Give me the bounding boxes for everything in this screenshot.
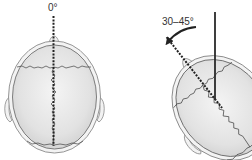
neutral-angle-label: 0° [48, 2, 58, 13]
neutral-skull-panel: 0° [5, 2, 105, 153]
rotation-arrow-icon [168, 27, 196, 42]
skull-rotation-diagram: 0° 30–45° [0, 0, 252, 160]
rotated-skull-panel: 30–45° [127, 9, 252, 160]
rotated-angle-label: 30–45° [162, 16, 194, 27]
